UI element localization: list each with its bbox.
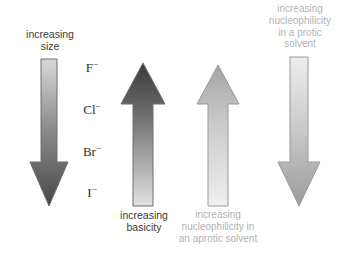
arrow-increasing-nucleophilicity-protic — [276, 56, 322, 208]
ion-symbol: Cl — [83, 102, 95, 117]
ion-symbol: Br — [83, 144, 96, 159]
arrow-increasing-size — [28, 58, 70, 208]
ion-chloride: Cl− — [72, 102, 112, 118]
ion-charge: − — [96, 143, 101, 153]
trend-label-nucleophilicity-protic: increasing nucleophilicity in a protic s… — [254, 3, 346, 50]
trend-label-nucleophilicity-aprotic: increasing nucleophilicity in an aprotic… — [163, 209, 273, 244]
trend-label-size: increasing size — [2, 28, 98, 53]
arrow-increasing-basicity — [119, 62, 167, 208]
ion-bromide: Br− — [72, 144, 112, 160]
diagram-canvas: increasing size F− Cl− Br− I− — [0, 0, 349, 256]
ion-charge: − — [93, 59, 98, 69]
arrow-increasing-nucleophilicity-aprotic — [195, 64, 241, 208]
ion-iodide: I− — [72, 185, 112, 201]
ion-charge: − — [92, 184, 97, 194]
ion-charge: − — [96, 101, 101, 111]
ion-fluoride: F− — [72, 60, 112, 76]
ion-symbol: F — [86, 60, 93, 75]
